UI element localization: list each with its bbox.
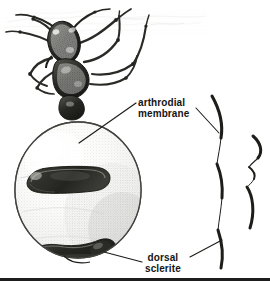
- label-arthrodial-membrane-line2: membrane: [138, 108, 189, 119]
- leader-line-sclerite-to-bracket: [190, 240, 222, 257]
- label-dorsal-sclerite: dorsal sclerite: [145, 252, 181, 274]
- inner-bracket: [247, 136, 261, 228]
- label-dorsal-sclerite-line2: sclerite: [145, 263, 181, 274]
- mesosoma-thorax: [53, 59, 89, 99]
- ant-anatomy-figure: arthrodial membrane dorsal sclerite: [0, 0, 270, 281]
- leader-line-membrane-to-bracket: [196, 108, 219, 133]
- label-dorsal-sclerite-line1: dorsal: [145, 252, 181, 263]
- petiole: [59, 95, 85, 120]
- label-arthrodial-membrane-line1: arthrodial: [138, 97, 185, 108]
- illustration-canvas: [0, 0, 270, 281]
- substrate-texture: [2, 10, 207, 36]
- label-arthrodial-membrane: arthrodial membrane: [138, 97, 189, 119]
- gaster-distended: [15, 122, 160, 281]
- dorsal-sclerite-upper-band: [27, 166, 110, 193]
- leader-line-dorsal-sclerite: [104, 252, 142, 262]
